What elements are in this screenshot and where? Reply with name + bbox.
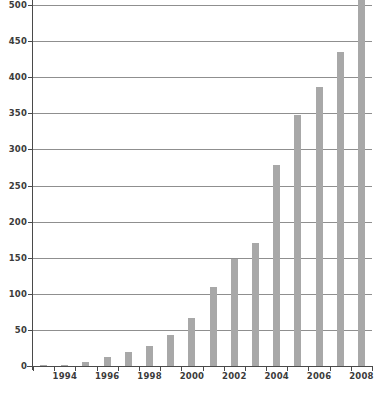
x-tick-label: 2004: [264, 372, 288, 381]
y-tick-label: 200: [9, 218, 27, 227]
x-tick-label: 1998: [137, 372, 161, 381]
bar-chart-figure: 050100150200250300350400450500 199419961…: [0, 0, 379, 415]
x-tick-label: 2008: [349, 372, 373, 381]
cropped-footer-text: [8, 399, 376, 413]
x-tick-mark: [33, 366, 34, 371]
x-tick-label: 2006: [307, 372, 331, 381]
x-tick-label: 2000: [180, 372, 204, 381]
y-tick-label: 250: [9, 182, 27, 191]
y-tick-label: 150: [9, 254, 27, 263]
y-tick-label: 350: [9, 109, 27, 118]
y-tick-label: 500: [9, 1, 27, 10]
y-tick-label: 300: [9, 145, 27, 154]
y-tick-label: 100: [9, 290, 27, 299]
y-axis-labels: 050100150200250300350400450500: [0, 0, 27, 370]
x-tick-label: 1994: [53, 372, 77, 381]
y-tick-label: 400: [9, 73, 27, 82]
y-tick-label: 50: [15, 326, 27, 335]
x-tick-label: 1996: [95, 372, 119, 381]
x-axis-labels: 19941996199820002002200420062008: [33, 0, 372, 415]
y-tick-label: 450: [9, 37, 27, 46]
x-tick-label: 2002: [222, 372, 246, 381]
